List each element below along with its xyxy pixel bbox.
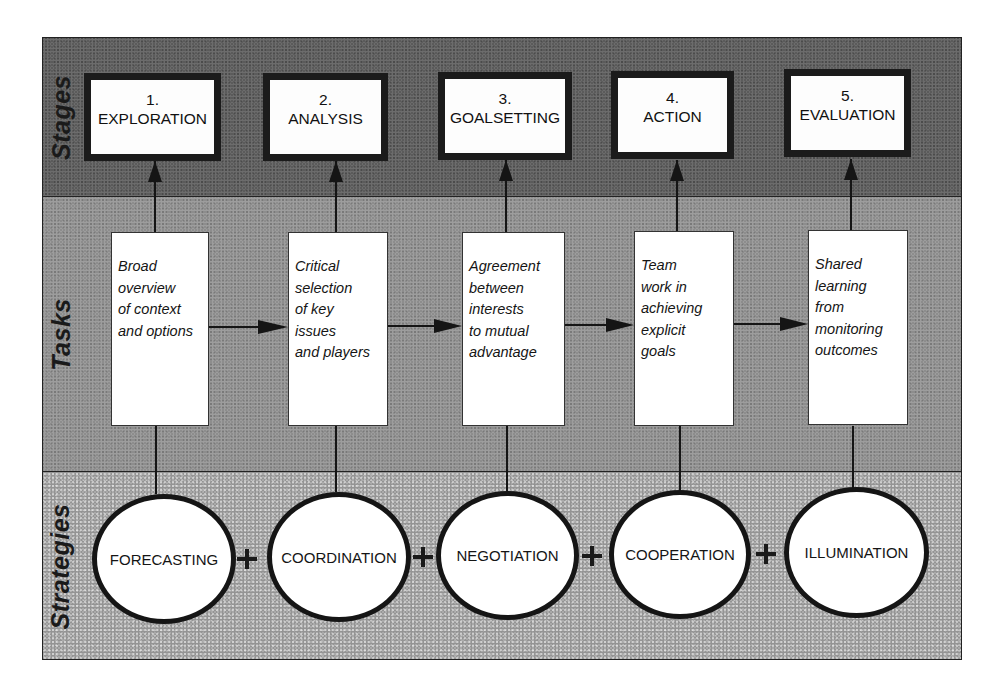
strategy-name: COORDINATION bbox=[281, 549, 397, 566]
strategy-name: COOPERATION bbox=[625, 546, 735, 563]
task-box-exploration: Broad overview of context and options bbox=[111, 232, 209, 426]
task-box-evaluation: Shared learning from monitoring outcomes bbox=[808, 230, 908, 425]
stages-row-label-text: Stages bbox=[47, 75, 76, 160]
tasks-row-label-text: Tasks bbox=[47, 298, 76, 370]
task-box-action: Team work in achieving explicit goals bbox=[634, 231, 734, 426]
strategy-name: NEGOTIATION bbox=[456, 547, 558, 564]
strategy-name: ILLUMINATION bbox=[805, 544, 909, 561]
stage-box-evaluation: 5. EVALUATION bbox=[784, 69, 911, 157]
stage-number: 2. bbox=[319, 90, 332, 109]
stage-box-action: 4. ACTION bbox=[611, 71, 734, 159]
stages-row-label: Stages bbox=[43, 38, 79, 197]
plus-icon bbox=[237, 549, 257, 569]
stage-name: EVALUATION bbox=[800, 105, 896, 124]
stage-number: 1. bbox=[146, 90, 159, 109]
stage-name: ANALYSIS bbox=[288, 109, 363, 128]
stage-box-exploration: 1. EXPLORATION bbox=[84, 73, 221, 161]
stage-number: 4. bbox=[666, 88, 679, 107]
strategy-circle-coordination: COORDINATION bbox=[267, 492, 411, 622]
strategy-circle-cooperation: COOPERATION bbox=[609, 490, 751, 619]
stage-box-goalsetting: 3. GOALSETTING bbox=[438, 72, 572, 160]
stage-name: EXPLORATION bbox=[98, 109, 207, 128]
stage-name: GOALSETTING bbox=[450, 108, 560, 127]
strategies-row-label-text: Strategies bbox=[47, 504, 76, 630]
strategy-name: FORECASTING bbox=[110, 551, 218, 568]
stage-name: ACTION bbox=[643, 107, 702, 126]
plus-icon bbox=[756, 544, 776, 564]
task-box-analysis: Critical selection of key issues and pla… bbox=[288, 232, 388, 426]
plus-icon bbox=[413, 547, 433, 567]
strategy-circle-forecasting: FORECASTING bbox=[92, 494, 236, 624]
stage-box-analysis: 2. ANALYSIS bbox=[263, 73, 388, 161]
strategy-circle-negotiation: NEGOTIATION bbox=[436, 491, 579, 620]
stage-number: 3. bbox=[499, 89, 512, 108]
task-box-goalsetting: Agreement between interests to mutual ad… bbox=[462, 232, 565, 426]
plus-icon bbox=[582, 546, 602, 566]
strategy-circle-illumination: ILLUMINATION bbox=[784, 487, 929, 618]
stage-task-strategy-diagram: Stages Tasks Strategies bbox=[0, 0, 1007, 697]
stage-number: 5. bbox=[841, 86, 854, 105]
strategies-row-label: Strategies bbox=[43, 472, 79, 661]
tasks-row-label: Tasks bbox=[43, 197, 79, 472]
